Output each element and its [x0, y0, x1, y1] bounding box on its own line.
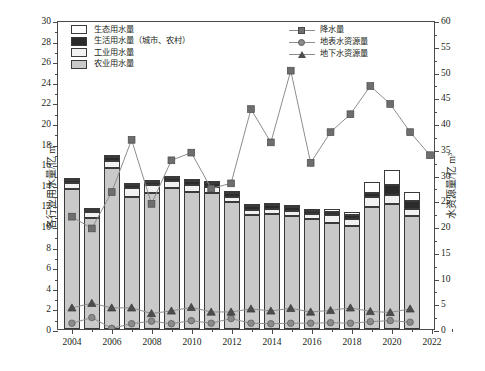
swatch-agricultural-icon [71, 60, 87, 69]
bar-segment-ecol [204, 181, 220, 183]
y-tick-label-right: 60 [441, 17, 451, 27]
y-minor-tick-right [434, 215, 437, 216]
bar-2011[interactable] [204, 20, 220, 329]
x-tick-label: 2016 [303, 338, 322, 348]
y-minor-tick-right [434, 267, 437, 268]
bar-2015[interactable] [284, 20, 300, 329]
bar-segment-indu [284, 211, 300, 216]
bar-segment-indu [384, 195, 400, 205]
y-tick-right [434, 177, 439, 178]
legend-item-domestic: 生活用水量（城市、农村） [71, 36, 190, 48]
y-tick-label-left: 24 [42, 79, 52, 89]
bar-segment-ecol [244, 204, 260, 206]
bar-segment-dome [244, 206, 260, 210]
bar-segment-dome [304, 211, 320, 215]
bar-segment-ecol [384, 170, 400, 185]
x-tick [72, 329, 73, 334]
bar-segment-indu [144, 185, 160, 193]
bar-2021[interactable] [404, 20, 420, 329]
x-tick [432, 329, 433, 334]
bar-segment-agri [344, 226, 360, 329]
y-tick-label-left: 12 [42, 203, 52, 213]
y-minor-tick-left [55, 197, 58, 198]
bar-segment-dome [264, 205, 280, 209]
x-tick-label: 2012 [223, 338, 242, 348]
x-tick-label: 2008 [143, 338, 162, 348]
y-tick-left [53, 310, 58, 311]
legend-water-use: 生态用水量 生活用水量（城市、农村） 工业用水量 农业用水量 [71, 24, 190, 70]
x-minor-tick [132, 329, 133, 332]
legend-label-ecological: 生态用水量 [94, 26, 134, 34]
y-tick-label-left: 8 [46, 244, 51, 254]
y-minor-tick-right [434, 292, 437, 293]
y-tick-left [53, 269, 58, 270]
swatch-ecological-icon [71, 25, 87, 34]
y-tick-label-right: 40 [441, 120, 451, 130]
bar-2012[interactable] [224, 20, 240, 329]
y-minor-tick-left [55, 300, 58, 301]
y-tick-left [53, 84, 58, 85]
bar-2018[interactable] [344, 20, 360, 329]
bar-segment-dome [384, 185, 400, 194]
bar-segment-agri [384, 204, 400, 329]
bar-segment-agri [264, 214, 280, 329]
y-minor-tick-left [55, 94, 58, 95]
bar-segment-agri [324, 223, 340, 329]
bar-segment-indu [264, 209, 280, 214]
marker-square-icon [289, 24, 315, 36]
bar-segment-ecol [344, 212, 360, 215]
y-tick-right [434, 48, 439, 49]
bar-segment-ecol [284, 205, 300, 207]
bar-segment-ecol [364, 182, 380, 192]
y-minor-tick-right [434, 164, 437, 165]
y-minor-tick-right [434, 35, 437, 36]
bar-segment-agri [184, 192, 200, 329]
bar-segment-agri [404, 216, 420, 329]
bar-2020[interactable] [384, 20, 400, 329]
bar-segment-indu [124, 188, 140, 196]
x-tick [312, 329, 313, 334]
legend-label-industrial: 工业用水量 [94, 49, 134, 57]
bar-2016[interactable] [304, 20, 320, 329]
bar-segment-ecol [64, 178, 80, 180]
legend-item-industrial: 工业用水量 [71, 47, 190, 59]
bar-2019[interactable] [364, 20, 380, 329]
bar-segment-dome [324, 212, 340, 216]
legend-label-surface-water: 地表水资源量 [320, 38, 368, 46]
bar-segment-dome [224, 193, 240, 197]
x-minor-tick [372, 329, 373, 332]
bar-segment-indu [64, 183, 80, 189]
y-tick-label-left: 16 [42, 161, 52, 171]
y-tick-left [53, 22, 58, 23]
y-tick-right [434, 22, 439, 23]
bar-2013[interactable] [244, 20, 260, 329]
bar-segment-indu [224, 197, 240, 203]
bar-segment-dome [184, 181, 200, 185]
y-tick-right [434, 74, 439, 75]
bar-2017[interactable] [324, 20, 340, 329]
bar-segment-agri [244, 215, 260, 329]
bar-2014[interactable] [264, 20, 280, 329]
bar-segment-ecol [164, 176, 180, 178]
bar-segment-ecol [324, 209, 340, 212]
bar-segment-ecol [224, 191, 240, 193]
y-tick-left [53, 331, 58, 332]
y-tick-left [53, 166, 58, 167]
y-tick-left [53, 125, 58, 126]
y-minor-tick-left [55, 280, 58, 281]
y-minor-tick-right [434, 138, 437, 139]
y-tick-label-right: 20 [441, 223, 451, 233]
y-tick-label-left: 2 [46, 306, 51, 316]
x-minor-tick [332, 329, 333, 332]
y-tick-label-left: 18 [42, 141, 52, 151]
bar-segment-indu [104, 161, 120, 168]
bar-segment-ecol [144, 180, 160, 182]
y-tick-left [53, 249, 58, 250]
marker-square-icon[interactable] [427, 152, 434, 159]
bar-segment-indu [164, 181, 180, 188]
bar-segment-ecol [84, 208, 100, 210]
y-tick-label-left: 4 [46, 285, 51, 295]
x-minor-tick [92, 329, 93, 332]
bar-segment-dome [64, 180, 80, 183]
y-minor-tick-left [55, 177, 58, 178]
